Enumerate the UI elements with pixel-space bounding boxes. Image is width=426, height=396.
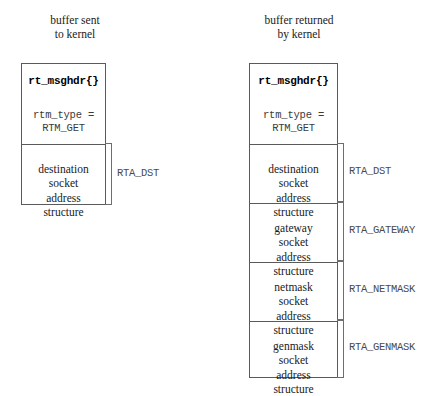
brace-label-rta-netmask: RTA_NETMASK: [349, 283, 415, 295]
sockaddr-section-genmask: genmask socket address structure: [250, 321, 337, 379]
buffer-sent-box: rt_msghdr{} rtm_type = RTM_GET destinati…: [21, 63, 106, 205]
rt-msghdr-section-sent: rt_msghdr{} rtm_type = RTM_GET: [22, 64, 105, 144]
sockaddr-section-text: genmask socket address structure: [273, 340, 314, 395]
rtm-type-field: rtm_type = RTM_GET: [250, 109, 337, 135]
struct-name-label: rt_msghdr{}: [22, 75, 105, 87]
brace-spine: [343, 320, 344, 378]
buffer-returned-box: rt_msghdr{} rtm_type = RTM_GET destinati…: [249, 63, 338, 378]
sockaddr-section-netmask: netmask socket address structure: [250, 262, 337, 321]
brace-label-rta-dst: RTA_DST: [349, 165, 391, 177]
sockaddr-section-text: destination socket address structure: [38, 163, 88, 218]
brace-label-rta-genmask: RTA_GENMASK: [349, 341, 415, 353]
rtm-type-field: rtm_type = RTM_GET: [22, 109, 105, 135]
brace-label-rta-gateway: RTA_GATEWAY: [349, 224, 415, 236]
brace-spine: [343, 143, 344, 202]
brace-label-rta-dst-sent: RTA_DST: [117, 167, 159, 179]
sockaddr-section-dst-sent: destination socket address structure: [22, 144, 105, 206]
brace-tick-bottom: [105, 204, 112, 205]
brace-spine: [343, 202, 344, 261]
rt-msghdr-section-returned: rt_msghdr{} rtm_type = RTM_GET: [250, 64, 337, 144]
brace-spine: [343, 261, 344, 320]
sockaddr-section-dst: destination socket address structure: [250, 144, 337, 203]
caption-buffer-sent: buffer sent to kernel: [12, 13, 138, 41]
brace-spine: [111, 143, 112, 205]
struct-name-label: rt_msghdr{}: [250, 75, 337, 87]
brace-tick-bottom: [337, 377, 344, 378]
caption-buffer-returned: buffer returned by kernel: [236, 13, 362, 41]
sockaddr-section-gateway: gateway socket address structure: [250, 203, 337, 262]
